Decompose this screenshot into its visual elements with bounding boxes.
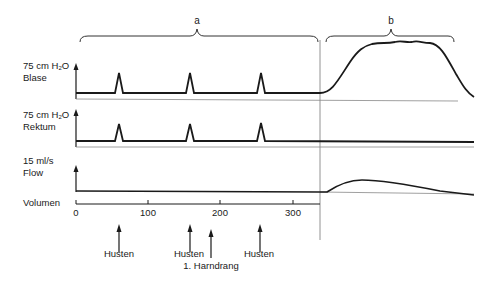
volume-axis-label: Volumen	[23, 197, 60, 208]
first-urge-annotation: 1. Harndrang	[183, 260, 238, 271]
cough-annotation-3: Husten	[244, 248, 274, 259]
volume-axis	[76, 200, 320, 204]
volume-tick-0: 0	[73, 207, 78, 218]
flow-channel	[74, 165, 475, 195]
brace-a	[80, 29, 318, 42]
brace-a-label: a	[194, 15, 200, 26]
volume-tick-100: 100	[140, 207, 156, 218]
cough-annotation-1: Husten	[104, 248, 134, 259]
flow-scale-label: 15 ml/s	[23, 155, 54, 166]
blase-trace	[76, 41, 474, 97]
brace-b-label: b	[388, 15, 394, 26]
brace-b	[326, 29, 454, 42]
volume-tick-200: 200	[212, 207, 228, 218]
blase-channel	[74, 41, 475, 101]
rektum-name-label: Rektum	[23, 121, 56, 132]
rektum-trace	[76, 123, 474, 142]
cough-annotation-2: Husten	[174, 248, 204, 259]
flow-trace	[76, 180, 474, 195]
rektum-channel	[74, 109, 475, 147]
volume-tick-300: 300	[285, 207, 301, 218]
urodynamic-diagram	[0, 0, 481, 286]
blase-name-label: Blase	[23, 72, 47, 83]
flow-name-label: Flow	[23, 167, 43, 178]
